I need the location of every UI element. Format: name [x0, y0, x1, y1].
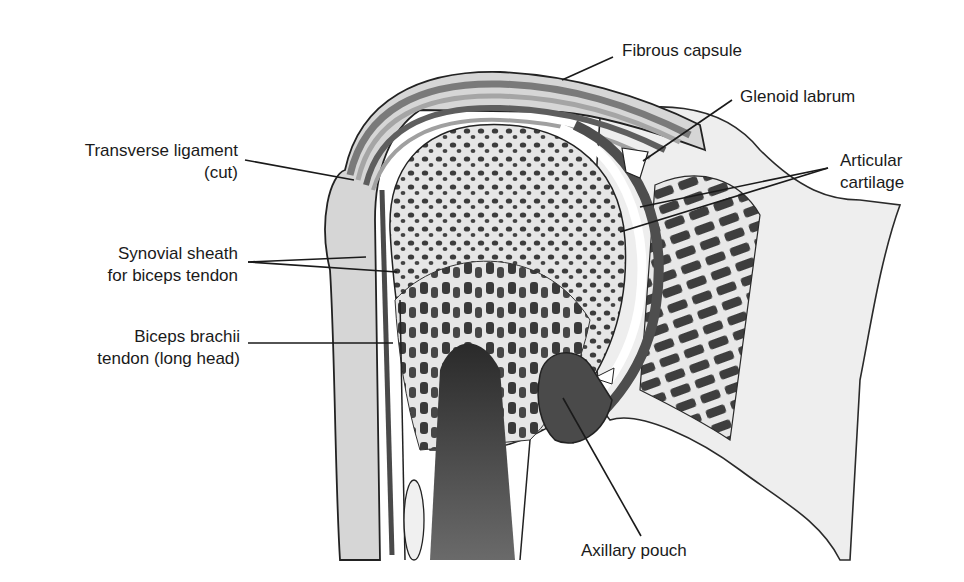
label-text-line2: (cut)	[85, 162, 238, 184]
label-glenoid-labrum: Glenoid labrum	[740, 86, 855, 108]
label-text-line1: Transverse ligament	[85, 140, 238, 162]
label-text: Fibrous capsule	[622, 40, 742, 62]
label-transverse-ligament: Transverse ligament (cut)	[85, 140, 238, 184]
label-text-line2: cartilage	[840, 172, 904, 194]
label-axillary-pouch: Axillary pouch	[581, 540, 687, 562]
shoulder-joint-diagram: Fibrous capsule Glenoid labrum Articular…	[0, 0, 964, 582]
label-text: Axillary pouch	[581, 540, 687, 562]
label-fibrous-capsule: Fibrous capsule	[622, 40, 742, 62]
label-biceps-tendon: Biceps brachii tendon (long head)	[97, 326, 240, 370]
label-text: Glenoid labrum	[740, 86, 855, 108]
label-text-line1: Synovial sheath	[108, 243, 238, 265]
label-synovial-sheath: Synovial sheath for biceps tendon	[108, 243, 238, 287]
label-articular-cartilage: Articular cartilage	[840, 150, 904, 194]
label-text-line2: for biceps tendon	[108, 265, 238, 287]
label-text-line2: tendon (long head)	[97, 348, 240, 370]
label-text-line1: Biceps brachii	[97, 326, 240, 348]
label-text-line1: Articular	[840, 150, 904, 172]
